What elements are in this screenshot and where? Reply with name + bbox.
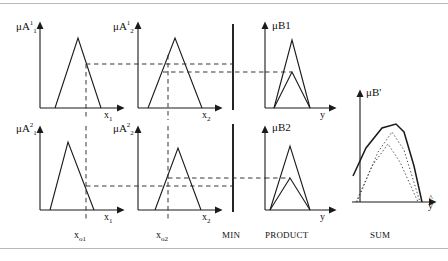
panel-b1-mu-label: μB1 <box>272 20 291 31</box>
panel-a12-x-axis-label: x1 <box>104 212 113 225</box>
firing-level-dashed-lines <box>86 55 292 222</box>
panel-b1-y-axis-label: y <box>320 110 325 120</box>
panel-bprime-mu-label: μB' <box>366 87 381 98</box>
panel-b1-axes <box>265 28 330 108</box>
panel-a11-x-axis-label: x1 <box>104 110 113 123</box>
panel-bprime-aggregate-envelope <box>353 124 422 202</box>
panel-a11-mu-label: μA11 <box>16 20 37 35</box>
panel-b1-membership-scaled <box>274 72 310 108</box>
panel-a22-axes <box>138 132 216 210</box>
panel-a21-x-axis-label: x2 <box>202 110 211 123</box>
panel-a22-mu-label: μA22 <box>113 122 134 137</box>
panel-b2-y-axis-label: y <box>320 212 325 222</box>
panel-a21-mu-label: μA12 <box>113 20 134 35</box>
panel-a11-membership <box>55 38 101 108</box>
caption-sum: SUM <box>370 231 390 240</box>
panel-b2-mu-label: μB2 <box>272 122 291 133</box>
caption-product: PRODUCT <box>265 231 308 240</box>
panel-a22-x-axis-label: x2 <box>202 212 211 225</box>
yhat-letter: y <box>428 201 433 211</box>
panel-a21-axes <box>138 28 216 108</box>
panel-bprime-component-curves <box>356 132 420 202</box>
figure-canvas: μA11 μA12 μA21 μA22 μB1 μB2 μB' x1 x2 x1… <box>0 0 448 261</box>
crisp-input-x02-label: xo2 <box>156 230 168 243</box>
diagram-vector-layer <box>0 0 448 261</box>
panel-b2-membership-scaled <box>270 178 310 210</box>
panel-a22-membership <box>155 148 201 210</box>
crisp-input-x01-label: xo1 <box>74 230 86 243</box>
caption-min: MIN <box>222 231 240 240</box>
panel-a12-mu-label: μA21 <box>16 122 37 137</box>
panel-a12-membership <box>50 142 94 210</box>
panel-bprime-yhat-axis-label: ^ y <box>428 196 433 211</box>
panel-a21-membership <box>148 38 202 108</box>
